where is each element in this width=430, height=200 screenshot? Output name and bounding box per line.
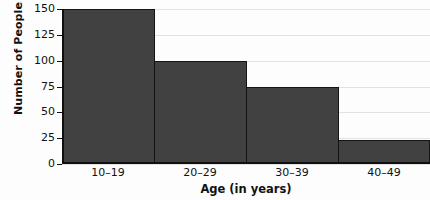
plot-area [62,9,430,164]
y-tick-mark [57,9,62,10]
x-axis-title: Age (in years) [62,182,430,196]
bar [338,140,430,164]
y-tick-label: 50 [15,106,55,117]
y-tick-label: 0 [15,158,55,169]
x-tick-label: 40–49 [338,167,430,179]
y-tick-mark [57,35,62,36]
y-tick-mark [57,61,62,62]
y-tick-label: 25 [15,132,55,143]
y-tick-label: 150 [15,3,55,14]
histogram-chart: Number of People 0255075100125150 10–192… [0,0,430,200]
bar [246,87,339,165]
y-tick-mark [57,87,62,88]
bar [154,61,247,164]
x-axis-line [62,162,430,164]
y-tick-label: 75 [15,81,55,92]
chart-title [0,0,430,1]
y-tick-mark [57,112,62,113]
x-tick-label: 30–39 [246,167,338,179]
y-axis-line [62,9,64,164]
y-tick-mark [57,164,62,165]
gridline [62,164,430,165]
bar [62,9,155,164]
y-tick-mark [57,138,62,139]
x-tick-label: 20–29 [154,167,246,179]
x-tick-label: 10–19 [62,167,154,179]
y-tick-label: 125 [15,29,55,40]
y-tick-label: 100 [15,55,55,66]
